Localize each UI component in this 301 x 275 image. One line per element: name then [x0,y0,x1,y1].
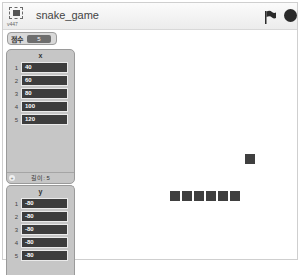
item-value[interactable]: -80 [21,198,68,209]
list-title: y [7,186,74,197]
list-monitor-x: x 1 40 2 60 3 80 4 100 5 120 + [6,49,75,184]
item-index: 1 [7,65,18,71]
stage[interactable]: 점수 5 x 1 40 2 60 3 80 4 100 5 120 [3,30,297,259]
item-index: 1 [7,201,18,207]
item-value[interactable]: 120 [21,114,68,125]
item-index: 2 [7,78,18,84]
snake-segment[interactable] [182,191,192,201]
version-label: v447 [7,21,18,27]
list-title: x [7,50,74,61]
list-item[interactable]: 2 -80 [7,210,74,223]
item-value[interactable]: -80 [21,250,68,261]
list-item[interactable]: 5 120 [7,113,74,126]
item-index: 3 [7,227,18,233]
list-item[interactable]: 3 -80 [7,223,74,236]
item-index: 2 [7,214,18,220]
item-value[interactable]: -80 [21,211,68,222]
list-item[interactable]: 4 -80 [7,236,74,249]
add-item-button[interactable]: + [9,175,15,181]
food-sprite[interactable] [245,154,255,164]
project-title: snake_game [36,9,99,21]
list-item[interactable]: 1 40 [7,61,74,74]
list-length: 길이: 5 [31,175,50,181]
list-item[interactable]: 2 60 [7,74,74,87]
list-item[interactable]: 4 100 [7,100,74,113]
item-index: 4 [7,104,18,110]
item-value[interactable]: 80 [21,88,68,99]
score-monitor: 점수 5 [7,32,57,45]
snake-segment[interactable] [230,191,240,201]
green-flag-icon[interactable] [264,10,276,24]
fullscreen-icon-inner [13,10,20,16]
item-value[interactable]: 40 [21,62,68,73]
item-value[interactable]: 60 [21,75,68,86]
item-index: 4 [7,240,18,246]
list-item[interactable]: 1 -80 [7,197,74,210]
item-value[interactable]: 100 [21,101,68,112]
list-monitor-y: y 1 -80 2 -80 3 -80 4 -80 5 -80 [6,185,75,275]
item-value[interactable]: -80 [21,224,68,235]
item-index: 5 [7,253,18,259]
item-index: 3 [7,91,18,97]
snake-segment[interactable] [206,191,216,201]
score-label: 점수 [11,34,23,44]
list-footer: + 길이: 5 [7,172,74,183]
item-value[interactable]: -80 [21,237,68,248]
list-item[interactable]: 3 80 [7,87,74,100]
item-index: 5 [7,117,18,123]
project-player-window: v447 snake_game 점수 5 x 1 40 2 60 3 80 [2,2,298,260]
snake-segment[interactable] [218,191,228,201]
stop-button[interactable] [284,9,297,22]
score-value: 5 [27,35,51,43]
snake-segment[interactable] [170,191,180,201]
list-item[interactable]: 5 -80 [7,249,74,262]
snake-segment[interactable] [194,191,204,201]
player-topbar: v447 snake_game [3,3,297,30]
